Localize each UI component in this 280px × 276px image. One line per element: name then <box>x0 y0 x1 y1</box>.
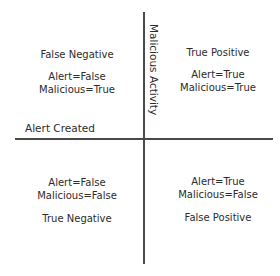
quadrant-bottom-right: Alert=True Malicious=False False Positiv… <box>158 175 278 224</box>
alert-condition: Alert=True <box>158 175 278 188</box>
quadrant-title: False Negative <box>17 48 137 61</box>
alert-condition: Alert=True <box>158 68 278 81</box>
malicious-condition: Malicious=True <box>17 83 137 96</box>
quadrant-title: True Positive <box>158 46 278 59</box>
quadrant-top-left: False Negative Alert=False Malicious=Tru… <box>17 48 137 96</box>
alert-condition: Alert=False <box>17 176 137 189</box>
malicious-condition: Malicious=False <box>158 188 278 201</box>
quadrant-title: True Negative <box>17 212 137 225</box>
horizontal-axis-label: Alert Created <box>25 122 95 134</box>
alert-condition: Alert=False <box>17 70 137 83</box>
malicious-condition: Malicious=False <box>17 189 137 202</box>
quadrant-top-right: True Positive Alert=True Malicious=True <box>158 46 278 94</box>
malicious-condition: Malicious=True <box>158 81 278 94</box>
horizontal-axis-line <box>15 138 273 140</box>
quadrant-bottom-left: Alert=False Malicious=False True Negativ… <box>17 176 137 225</box>
quadrant-title: False Positive <box>158 211 278 224</box>
